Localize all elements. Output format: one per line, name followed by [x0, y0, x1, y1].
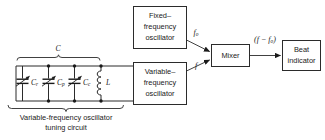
capacitor-range — [16, 66, 30, 101]
variable-oscillator-line1: Variable– — [145, 67, 177, 76]
fixed-oscillator-line2: frequency — [144, 22, 177, 31]
capacitor-range-label: Cr — [31, 77, 39, 86]
variable-oscillator-box[interactable]: Variable– frequency oscillator — [134, 63, 187, 105]
mixer-output-signal-label: (f − fo) — [254, 35, 276, 44]
capacitor-padder-subscript: p — [61, 81, 65, 87]
tuning-circuit-group: C Cr — [8, 44, 134, 132]
capacitor-range-subscript: r — [36, 81, 39, 87]
capacitor-trimmer-subscript: c — [88, 81, 91, 87]
capacitor-padder — [42, 66, 56, 101]
capacitor-trimmer-label: Cc — [83, 77, 91, 86]
tuning-circuit-caption-line1: Variable-frequency oscillator — [20, 113, 113, 122]
connector-fixed-to-mixer: fo — [187, 28, 210, 52]
variable-oscillator-line2: frequency — [144, 78, 177, 87]
capacitor-padder-label: Cp — [57, 77, 65, 86]
mixer-box[interactable]: Mixer — [212, 45, 250, 67]
fixed-output-signal-label: fo — [194, 28, 199, 37]
tuning-circuit-brace-bottom — [8, 105, 124, 112]
total-capacitance-label: C — [56, 44, 62, 53]
beat-indicator-box[interactable]: Beat indicator — [283, 41, 321, 71]
inductor — [97, 66, 101, 101]
inductor-label: L — [105, 78, 110, 87]
tuning-circuit-caption-line2: tuning circuit — [45, 123, 87, 132]
beat-indicator-line2: indicator — [288, 56, 316, 65]
fixed-oscillator-box[interactable]: Fixed– frequency oscillator — [134, 7, 187, 49]
beat-indicator-line1: Beat — [294, 45, 309, 54]
mixer-label: Mixer — [221, 51, 240, 60]
capacitance-brace-top — [17, 55, 100, 61]
fixed-oscillator-line3: oscillator — [145, 33, 175, 42]
connector-variable-to-mixer: f — [187, 60, 210, 71]
fixed-oscillator-line1: Fixed– — [149, 11, 172, 20]
capacitor-trimmer — [68, 66, 82, 101]
block-diagram-svg: C Cr — [0, 0, 325, 140]
variable-oscillator-line3: oscillator — [145, 89, 175, 98]
diagram-root: C Cr — [0, 0, 325, 140]
connector-mixer-to-beat: (f − fo) — [250, 35, 281, 56]
